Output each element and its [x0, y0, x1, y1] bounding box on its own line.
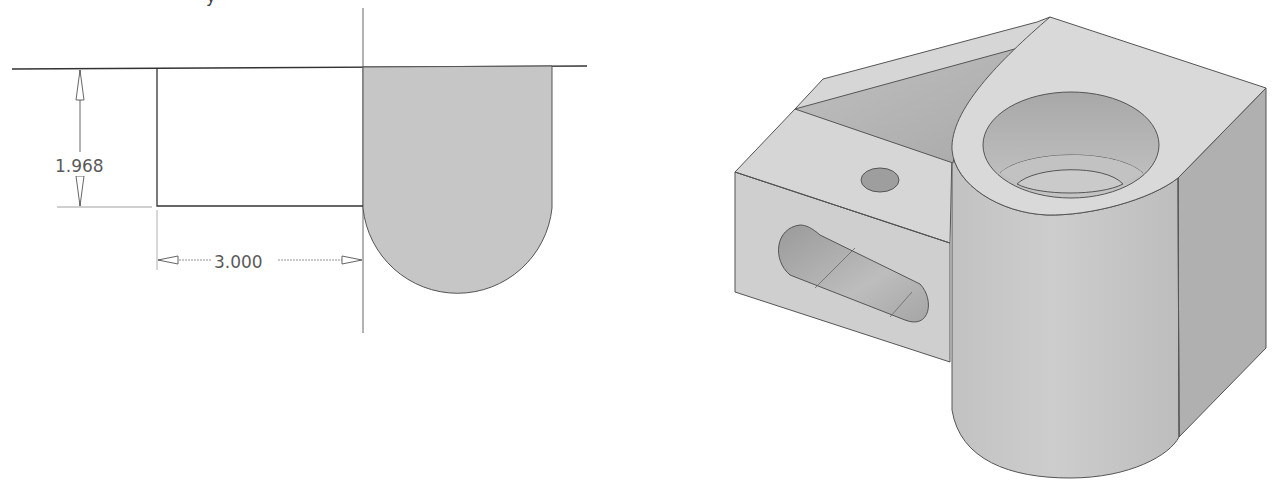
cut-off-caption-glyph: y — [206, 0, 216, 6]
arrow-left-icon — [158, 256, 178, 264]
sketch-2d: 1.968 3.000 — [12, 8, 587, 333]
model-3d — [735, 17, 1266, 478]
dimension-label-width: 3.000 — [214, 252, 263, 272]
revolved-profile-shape — [363, 66, 552, 293]
dimension-horizontal[interactable]: 3.000 — [158, 250, 362, 272]
arrow-down-icon — [76, 176, 84, 206]
dimension-label-height: 1.968 — [55, 156, 104, 176]
sketch-rectangle — [157, 68, 363, 206]
small-hole — [861, 168, 899, 192]
arrow-up-icon — [76, 70, 84, 100]
dimension-vertical[interactable]: 1.968 — [53, 70, 109, 206]
figure-canvas: y 1.968 3.000 — [0, 0, 1287, 491]
arrow-right-icon — [342, 256, 362, 264]
